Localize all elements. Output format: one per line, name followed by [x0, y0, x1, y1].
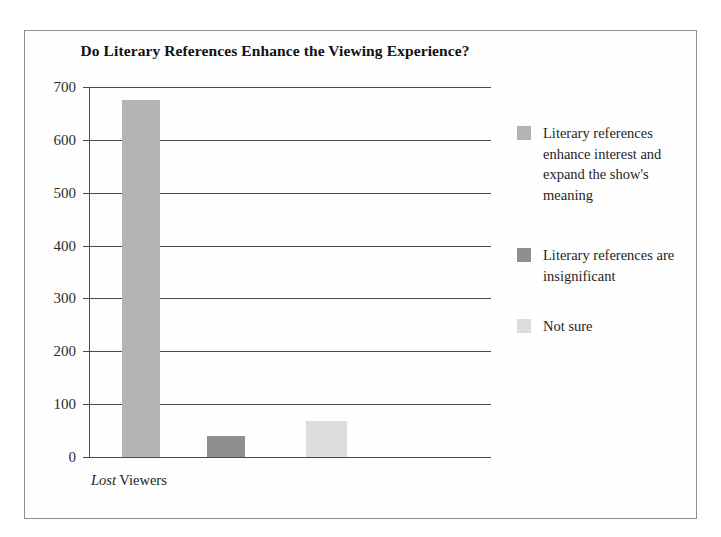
- y-axis-tick-label: 600: [54, 131, 77, 148]
- legend-item[interactable]: Literary references are insignificant: [517, 245, 697, 286]
- y-axis-tick-label: 700: [54, 79, 77, 96]
- y-axis-tick: [83, 246, 89, 247]
- legend-label: Literary references enhance interest and…: [543, 123, 691, 205]
- legend-item[interactable]: Not sure: [517, 316, 697, 337]
- legend-label: Literary references are insignificant: [543, 245, 691, 286]
- legend-item[interactable]: Literary references enhance interest and…: [517, 123, 697, 205]
- legend-swatch: [517, 248, 531, 262]
- legend-swatch: [517, 126, 531, 140]
- y-axis-tick-label: 100: [54, 396, 77, 413]
- gridline: [89, 87, 491, 88]
- plot-area: 7006005004003002001000: [89, 87, 491, 457]
- chart-title: Do Literary References Enhance the Viewi…: [25, 42, 525, 60]
- x-axis-label-rest: Viewers: [116, 472, 167, 488]
- y-axis-tick: [83, 351, 89, 352]
- y-axis-tick-label: 200: [54, 343, 77, 360]
- y-axis-tick: [83, 404, 89, 405]
- chart-legend: Literary references enhance interest and…: [517, 123, 697, 337]
- x-axis-label-series: Lost: [91, 472, 116, 488]
- y-axis-tick: [83, 298, 89, 299]
- bar: [207, 436, 245, 457]
- y-axis-tick-label: 300: [54, 290, 77, 307]
- y-axis-tick: [83, 457, 89, 458]
- y-axis-tick: [83, 193, 89, 194]
- y-axis-tick-label: 500: [54, 184, 77, 201]
- y-axis-line: [89, 87, 90, 457]
- legend-swatch: [517, 319, 531, 333]
- bar: [306, 421, 347, 457]
- y-axis-tick-label: 400: [54, 237, 77, 254]
- bar: [122, 100, 160, 457]
- figure-frame: Do Literary References Enhance the Viewi…: [24, 30, 697, 519]
- gridline: [89, 457, 491, 458]
- legend-label: Not sure: [543, 316, 593, 337]
- y-axis-tick: [83, 87, 89, 88]
- y-axis-tick-label: 0: [69, 449, 77, 466]
- x-axis-label: Lost Viewers: [91, 472, 167, 489]
- y-axis-tick: [83, 140, 89, 141]
